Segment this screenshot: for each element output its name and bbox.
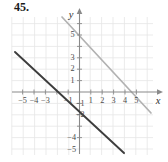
x-tick-label-4: 4 xyxy=(123,96,127,105)
y-tick-label-3: 3 xyxy=(70,53,74,62)
x-tick-label--1: −1 xyxy=(64,96,73,105)
y-axis-variable-label: y xyxy=(68,9,74,20)
x-tick-label-3: 3 xyxy=(112,96,116,105)
x-axis-variable-label: x xyxy=(155,95,161,106)
y-tick-label--5: −5 xyxy=(67,145,76,154)
y-tick-label--2: −2 xyxy=(76,110,85,119)
coordinate-graph: −5 −4 −3 −1 1 2 3 4 5 5 3 2 1 −1 −2 −4 −… xyxy=(0,0,168,162)
y-tick-label-1: 1 xyxy=(70,76,74,85)
y-tick-label-2: 2 xyxy=(70,64,74,73)
x-tick-label--5: −5 xyxy=(18,96,27,105)
x-tick-label--3: −3 xyxy=(41,96,50,105)
grid-lines xyxy=(12,17,153,155)
y-tick-label--1: −1 xyxy=(76,99,85,108)
x-tick-label-5: 5 xyxy=(134,96,138,105)
y-tick-label--4: −4 xyxy=(67,133,76,142)
x-tick-label--4: −4 xyxy=(30,96,39,105)
x-tick-label-1: 1 xyxy=(89,96,93,105)
y-tick-label-5: 5 xyxy=(70,30,74,39)
exercise-figure: 45. xyxy=(0,0,168,162)
x-tick-label-2: 2 xyxy=(100,96,104,105)
